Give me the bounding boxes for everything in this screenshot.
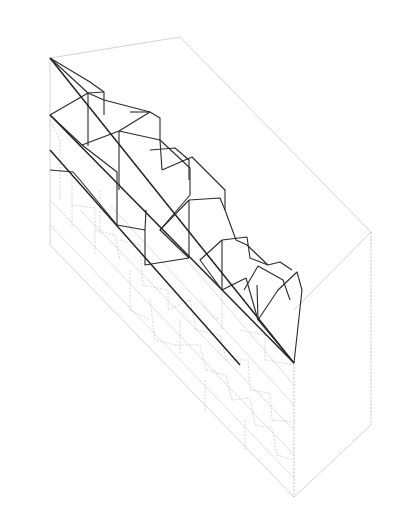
structure-edge (162, 157, 225, 210)
structure-edge (268, 262, 292, 270)
hidden-edge (265, 360, 294, 365)
hidden-edge (206, 370, 232, 400)
structure-edge (50, 58, 104, 115)
solid-structure-lines (50, 58, 302, 363)
section-cut-line (50, 115, 294, 363)
box-edge (294, 232, 371, 310)
hidden-edge (240, 330, 265, 360)
structure-edge (117, 210, 146, 230)
structure-edge (145, 230, 189, 265)
hidden-edge (95, 230, 120, 260)
strata-line (50, 225, 294, 478)
axonometric-drawing (0, 0, 407, 510)
hidden-edge (200, 300, 220, 320)
box-edge (50, 245, 294, 497)
structure-edge (50, 93, 88, 146)
structure-edge (119, 131, 162, 170)
hidden-edge (150, 300, 175, 345)
structure-edge (160, 200, 189, 258)
strata-line (80, 210, 294, 430)
hidden-edge (72, 205, 95, 208)
box-edge (294, 425, 371, 497)
structure-edge (150, 148, 189, 180)
structure-edge (222, 237, 268, 265)
hidden-edge (255, 425, 277, 455)
structure-edge (246, 278, 258, 320)
hidden-edge (272, 420, 294, 422)
structure-edge (189, 198, 236, 240)
structure-edge (88, 93, 160, 140)
bounding-box (50, 37, 371, 497)
strata-line (110, 205, 294, 405)
hidden-edge (226, 360, 250, 390)
box-edge (180, 37, 371, 232)
structure-edge (160, 140, 190, 230)
structure-edge (200, 240, 246, 290)
hidden-edge (130, 270, 150, 320)
hidden-edge (277, 455, 294, 460)
structure-edge (236, 240, 268, 265)
box-edge (50, 37, 180, 58)
structure-edge (50, 115, 117, 225)
hidden-edge (143, 285, 168, 310)
